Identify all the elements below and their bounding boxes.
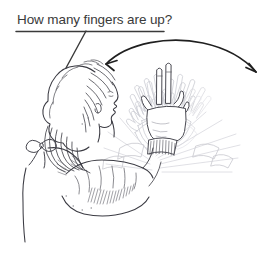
arm-lower-outline: [62, 196, 149, 216]
illustration-figure: How many fingers are up?: [0, 0, 275, 280]
arm-upper-outline: [66, 160, 153, 178]
hair-outline: [43, 66, 95, 151]
caption-leader-line: [66, 31, 86, 68]
neck: [98, 124, 100, 142]
girl-figure: [23, 60, 161, 242]
palm: [147, 106, 186, 142]
motion-arrow-arc: [106, 40, 256, 72]
scene-drawing: [0, 0, 275, 280]
ear: [95, 103, 101, 113]
sleeve-hatching: [88, 184, 134, 204]
shoulder-line: [23, 168, 26, 242]
hair-strands: [83, 64, 115, 132]
eye-detail: [108, 91, 113, 96]
long-hair-back: [45, 126, 90, 173]
waving-motion-arrow: [106, 40, 256, 72]
stipple-marks: [66, 118, 92, 210]
middle-finger: [166, 63, 172, 103]
index-finger: [157, 68, 162, 104]
waving-hand: [142, 63, 190, 155]
caption-underline-group: [16, 31, 164, 68]
face-profile: [101, 82, 119, 128]
